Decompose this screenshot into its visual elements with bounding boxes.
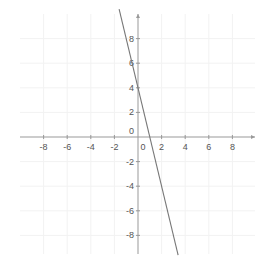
x-tick-label: 8 [230,142,235,152]
y-tick-label: -2 [126,157,134,167]
x-tick-label: -8 [40,142,48,152]
x-tick-label: -4 [87,142,95,152]
function-line [119,9,178,255]
function-graph: -8-6-4-22468-8-6-4-2246800 [0,0,265,266]
plot-lines [119,9,178,255]
x-tick-label: 6 [206,142,211,152]
x-tick-label: 4 [183,142,188,152]
y-tick-label: -4 [126,181,134,191]
axes [20,14,255,254]
origin-label-y: 0 [129,126,134,136]
y-tick-label: 4 [129,83,134,93]
x-tick-label: -6 [63,142,71,152]
y-tick-label: -8 [126,230,134,240]
x-tick-label: -2 [110,142,118,152]
y-tick-label: -6 [126,206,134,216]
x-axis-arrow-icon [251,135,255,139]
x-tick-label: 2 [159,142,164,152]
y-tick-label: 2 [129,107,134,117]
origin-label-x: 0 [140,142,145,152]
y-tick-label: 8 [129,34,134,44]
y-axis-arrow-icon [136,14,140,18]
